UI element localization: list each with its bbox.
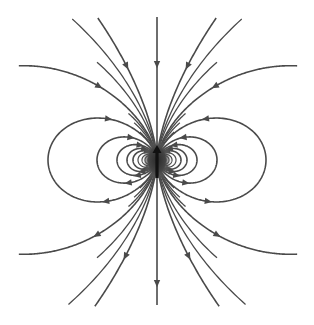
dipole-field-diagram	[0, 0, 314, 325]
closed-field-loop	[48, 118, 157, 202]
axial-arrow-icon	[154, 280, 160, 287]
closed-field-loop	[157, 118, 266, 202]
open-field-line	[157, 66, 297, 255]
field-lines-canvas	[0, 0, 314, 325]
field-direction-arrow-icon	[127, 134, 135, 140]
open-field-line	[19, 66, 157, 255]
field-direction-arrow-icon	[179, 134, 187, 140]
field-direction-arrow-icon	[202, 115, 210, 121]
field-direction-arrow-icon	[105, 115, 113, 121]
axial-arrow-icon	[154, 61, 160, 68]
